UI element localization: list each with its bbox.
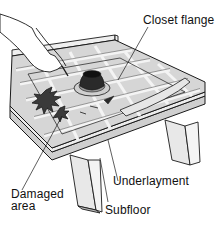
label-subfloor: Subfloor (105, 204, 151, 217)
label-damaged-area-line2: area (11, 200, 35, 213)
label-underlayment: Underlayment (113, 175, 189, 188)
label-closet-flange: Closet flange (143, 14, 214, 27)
diagram-canvas: Closet flange Underlayment Damaged area … (0, 0, 224, 232)
